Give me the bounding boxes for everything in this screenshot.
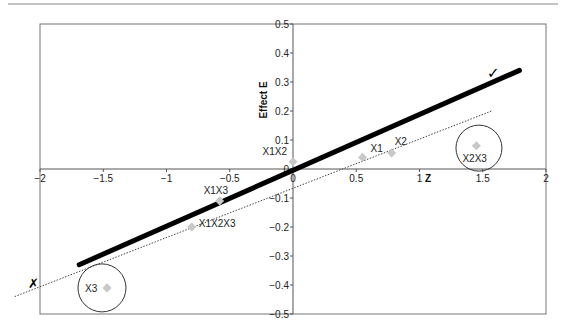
data-point-label: X1 (371, 143, 384, 154)
y-axis-title: Effect E (258, 81, 269, 119)
x-tick-label: −1.5 (93, 173, 113, 184)
y-tick-label: −0.5 (269, 309, 289, 320)
y-tick-label: −0.3 (269, 251, 289, 262)
data-point-marker (103, 283, 112, 292)
x-tick-label: 1.5 (476, 173, 490, 184)
data-point-label: X1X3 (204, 185, 229, 196)
x-tick-label: −2 (34, 173, 46, 184)
x-tick-label: 1 (417, 173, 423, 184)
y-tick-label: 0.5 (275, 19, 289, 30)
y-tick-label: −0.4 (269, 280, 289, 291)
data-point-marker (288, 157, 297, 166)
x-tick-label: 0 (290, 173, 296, 184)
y-tick-label: 0.2 (275, 106, 289, 117)
data-point-label: X2X3 (462, 153, 487, 164)
x-tick-label: 2 (543, 173, 549, 184)
data-point-label: X1X2X3 (199, 218, 236, 229)
x-axis-title: Z (425, 173, 431, 184)
y-tick-label: 0.4 (275, 48, 289, 59)
y-tick-label: −0.2 (269, 222, 289, 233)
y-tick-label: 0.1 (275, 135, 289, 146)
outlier-circle (456, 125, 502, 171)
data-point-marker (387, 149, 396, 158)
y-tick-label: −0.1 (269, 193, 289, 204)
outlier-circles (78, 125, 502, 312)
fitted-line-incorrect (15, 111, 492, 297)
fitted-line-correct (79, 70, 519, 264)
y-tick-label: 0.3 (275, 77, 289, 88)
effect-plot: −2−1.5−1−0.500.511.520.50.40.30.20.10−0.… (0, 0, 566, 333)
data-point-marker (187, 222, 196, 231)
x-tick-label: −1 (161, 173, 173, 184)
x-tick-label: 0.5 (349, 173, 363, 184)
data-points: X1X2X1X2X1X3X1X2X3X2X3X3 (85, 136, 487, 294)
data-point-label: X1X2 (263, 146, 288, 157)
data-point-marker (358, 153, 367, 162)
data-point-label: X3 (85, 283, 98, 294)
cross-mark-icon: ✗ (28, 276, 39, 291)
data-point-marker (472, 141, 481, 150)
data-point-label: X2 (395, 136, 408, 147)
check-mark-icon: ✓ (487, 64, 500, 82)
x-tick-label: −0.5 (220, 173, 240, 184)
